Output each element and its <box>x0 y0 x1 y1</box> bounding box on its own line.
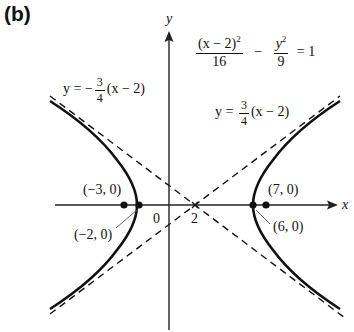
center-label: 2 <box>191 212 198 226</box>
asym-pos-lhs: y = <box>215 104 237 119</box>
eq-num2-exp: 2 <box>282 34 287 44</box>
left-focus-point <box>120 201 127 208</box>
right-vertex-label: (6, 0) <box>273 220 303 234</box>
asym-neg-num: 3 <box>95 76 105 91</box>
left-vertex-label: (−2, 0) <box>74 228 112 242</box>
asymptote-positive-label: y = 34(x − 2) <box>215 99 289 127</box>
asym-neg-den: 4 <box>97 91 103 105</box>
left-vertex-point <box>135 201 142 208</box>
left-focus-label: (−3, 0) <box>83 183 121 197</box>
right-focus-point <box>262 201 269 208</box>
eq-minus: − <box>254 44 262 59</box>
asym-pos-num: 3 <box>239 99 249 114</box>
eq-den1: 16 <box>212 54 226 70</box>
x-axis-label: x <box>342 198 348 212</box>
origin-label: 0 <box>153 212 160 226</box>
asym-neg-lhs: y = − <box>63 81 93 96</box>
asym-pos-rhs: (x − 2) <box>251 104 289 119</box>
y-axis-label: y <box>166 12 172 26</box>
eq-num1: (x − 2) <box>198 36 236 51</box>
hyperbola-equation: (x − 2)2 16 − y2 9 = 1 <box>194 37 315 69</box>
right-focus-label: (7, 0) <box>268 183 298 197</box>
right-vertex-leader <box>256 210 270 224</box>
asym-neg-rhs: (x − 2) <box>107 81 145 96</box>
asymptote-negative-label: y = −34(x − 2) <box>63 76 145 104</box>
right-vertex-point <box>249 201 256 208</box>
eq-rhs: = 1 <box>297 44 315 59</box>
panel-label: (b) <box>4 2 31 26</box>
eq-num1-exp: 2 <box>236 34 241 44</box>
eq-den2: 9 <box>278 54 285 70</box>
asym-pos-den: 4 <box>241 114 247 128</box>
